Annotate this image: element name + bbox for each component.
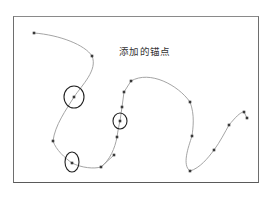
- added-anchor-points-label: 添加的锚点: [119, 44, 171, 58]
- anchor-point: [113, 154, 116, 157]
- anchor-point: [91, 55, 94, 58]
- anchor-point: [189, 101, 192, 104]
- anchor-point: [189, 170, 192, 173]
- anchor-point: [52, 140, 55, 143]
- anchor-point: [119, 120, 122, 123]
- anchor-point: [73, 96, 76, 99]
- anchor-point: [243, 111, 246, 114]
- anchor-point: [191, 135, 194, 138]
- anchor-point: [71, 162, 74, 165]
- bezier-curve-diagram: [0, 0, 273, 199]
- anchor-point: [121, 106, 124, 109]
- anchor-point: [228, 124, 231, 127]
- anchor-point: [123, 91, 126, 94]
- anchor-point: [130, 80, 133, 83]
- highlight-circles: [64, 86, 127, 172]
- anchor-point: [213, 149, 216, 152]
- anchor-point: [33, 32, 36, 35]
- anchor-point: [246, 117, 249, 120]
- anchor-point: [116, 136, 119, 139]
- anchor-point: [100, 166, 103, 169]
